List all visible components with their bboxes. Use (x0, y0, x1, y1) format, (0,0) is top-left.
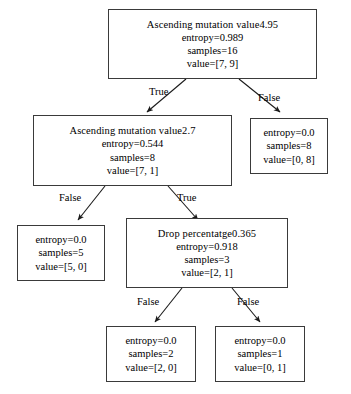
node-samples: samples=8 (110, 151, 155, 164)
node-value: value=[2, 1] (181, 266, 232, 279)
node-samples: samples=2 (129, 347, 174, 360)
decision-tree-diagram: Ascending mutation value⁤4.95 entropy=0.… (0, 0, 351, 394)
node-entropy: entropy=0.0 (35, 233, 86, 246)
tree-node-left-left-leaf: entropy=0.0 samples=5 value=[5, 0] (17, 225, 105, 281)
node-samples: samples=8 (267, 139, 312, 152)
node-samples: samples=1 (238, 347, 283, 360)
edge-label-root-true: True (149, 86, 168, 98)
edge-label-left-true: True (177, 192, 196, 204)
node-value: value=[5, 0] (35, 260, 86, 273)
node-samples: samples=3 (185, 253, 230, 266)
node-value: value=[7, 9] (187, 57, 238, 70)
edge-label-drop-false-left: False (137, 296, 159, 308)
node-entropy: entropy=0.0 (234, 334, 285, 347)
node-entropy: entropy=0.0 (263, 126, 314, 139)
tree-node-right-leaf: entropy=0.0 samples=8 value=[0, 8] (250, 118, 328, 174)
node-value: value=[0, 1] (234, 361, 285, 374)
node-condition: Ascending mutation value⁤2.7 (69, 124, 195, 137)
edge-label-left-false: False (59, 192, 81, 204)
node-entropy: entropy=0.989 (182, 31, 244, 44)
tree-node-left: Ascending mutation value⁤2.7 entropy=0.5… (33, 115, 232, 186)
node-entropy: entropy=0.544 (102, 137, 164, 150)
node-value: value=[7, 1] (107, 164, 158, 177)
edge-label-drop-false-right: False (237, 296, 259, 308)
node-condition: Ascending mutation value⁤4.95 (147, 18, 278, 31)
node-samples: samples=16 (187, 44, 237, 57)
node-condition: Drop percentatge⁤0.365 (158, 227, 256, 240)
node-value: value=[2, 0] (125, 361, 176, 374)
tree-node-leaf-b: entropy=0.0 samples=1 value=[0, 1] (215, 326, 305, 382)
node-samples: samples=5 (39, 246, 84, 259)
tree-node-leaf-a: entropy=0.0 samples=2 value=[2, 0] (106, 326, 196, 382)
tree-node-drop-percentage: Drop percentatge⁤0.365 entropy=0.918 sam… (126, 218, 288, 288)
node-value: value=[0, 8] (263, 153, 314, 166)
node-entropy: entropy=0.0 (125, 334, 176, 347)
tree-node-root: Ascending mutation value⁤4.95 entropy=0.… (108, 9, 317, 79)
edge-left-to-leftleaf (78, 186, 105, 220)
edge-label-root-false: False (258, 92, 280, 104)
node-entropy: entropy=0.918 (176, 240, 238, 253)
